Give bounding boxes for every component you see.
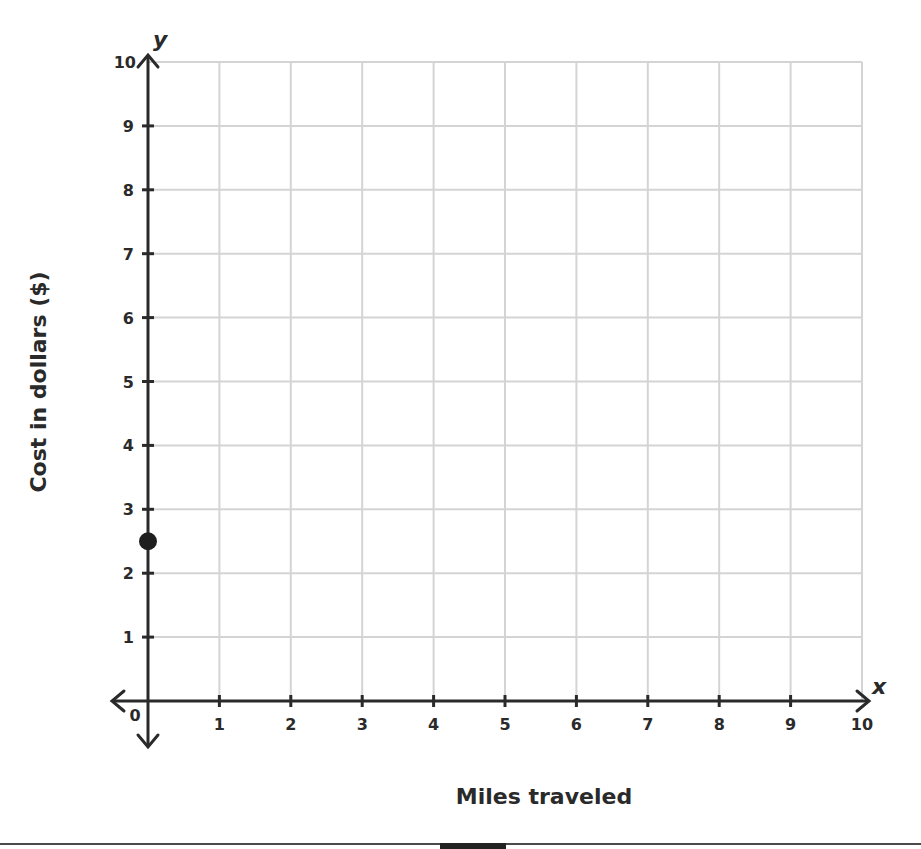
x-tick-label: 6 [571, 715, 582, 734]
grid-lines [148, 62, 862, 701]
x-tick-label: 5 [499, 715, 510, 734]
y-tick-label: 6 [123, 309, 134, 328]
y-axis-variable: y [153, 27, 169, 52]
x-tick-label: 8 [714, 715, 725, 734]
tick-marks [142, 126, 791, 707]
data-points [139, 532, 157, 550]
x-tick-label: 1 [214, 715, 225, 734]
y-tick-label: 5 [123, 373, 134, 392]
y-tick-label: 8 [123, 181, 134, 200]
page-footer-block [440, 843, 506, 849]
x-axis-variable: x [871, 674, 887, 699]
coordinate-plane: 12345678910012345678910 y x Cost in doll… [0, 0, 921, 849]
data-point [139, 532, 157, 550]
origin-label: 0 [129, 706, 140, 725]
y-tick-label: 7 [123, 245, 134, 264]
y-tick-label: 2 [123, 564, 134, 583]
x-tick-label: 10 [851, 715, 873, 734]
tick-labels: 12345678910012345678910 [114, 53, 873, 734]
x-tick-label: 3 [357, 715, 368, 734]
x-tick-label: 9 [785, 715, 796, 734]
x-tick-label: 2 [285, 715, 296, 734]
y-tick-label: 4 [123, 436, 134, 455]
x-tick-label: 4 [428, 715, 439, 734]
axes [112, 55, 869, 747]
x-axis-title: Miles traveled [456, 784, 632, 809]
y-tick-label: 3 [123, 500, 134, 519]
y-axis-title: Cost in dollars ($) [26, 271, 51, 492]
x-tick-label: 7 [642, 715, 653, 734]
y-tick-label: 1 [123, 628, 134, 647]
y-tick-label: 10 [114, 53, 136, 72]
y-tick-label: 9 [123, 117, 134, 136]
